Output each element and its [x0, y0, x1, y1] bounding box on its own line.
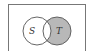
venn-diagram: S T — [0, 0, 88, 51]
set-t-label: T — [56, 26, 63, 36]
set-s-label: S — [29, 26, 35, 36]
